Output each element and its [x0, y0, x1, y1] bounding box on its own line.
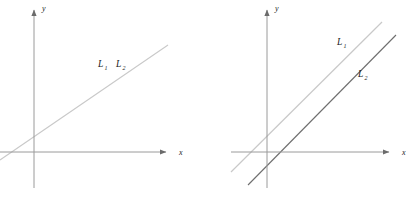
label-L1: L 1: [336, 37, 347, 49]
svg-text:1: 1: [105, 65, 108, 71]
svg-text:L: L: [115, 59, 121, 69]
label-L2: L 2: [357, 69, 368, 81]
svg-text:L: L: [97, 59, 103, 69]
x-axis-label: x: [401, 148, 406, 157]
parallel-lines-panel: x y L 1 L 2: [203, 0, 406, 205]
figure-container: x y L 1 L 2: [0, 0, 406, 205]
line-L2: [248, 35, 396, 185]
label-L1: L 1: [97, 59, 108, 71]
svg-text:2: 2: [123, 65, 126, 71]
svg-text:L: L: [336, 37, 342, 47]
label-L2: L 2: [115, 59, 126, 71]
y-axis-label: y: [41, 4, 46, 13]
x-axis-label: x: [178, 148, 183, 157]
svg-text:L: L: [357, 69, 363, 79]
svg-text:2: 2: [365, 75, 368, 81]
svg-text:1: 1: [344, 43, 347, 49]
line-L1: [231, 22, 382, 172]
line-L1-L2-coincident: [0, 45, 168, 160]
y-axis-label: y: [274, 4, 279, 13]
coincident-lines-panel: x y L 1 L 2: [0, 0, 203, 205]
